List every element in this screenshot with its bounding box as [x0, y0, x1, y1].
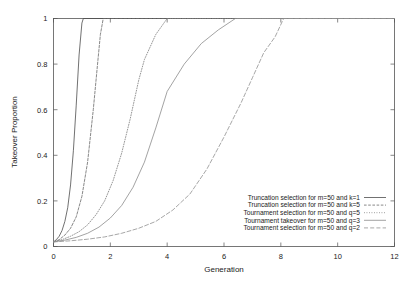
chart-figure: 024681012 00.20.40.60.81 Generation Take… — [0, 0, 411, 285]
x-tick-label: 0 — [51, 252, 55, 261]
x-tick-label: 6 — [222, 252, 226, 261]
x-tick-label: 10 — [333, 252, 341, 261]
y-tick-label: 1 — [43, 14, 47, 23]
takeover-proportion-line-chart: 024681012 00.20.40.60.81 Generation Take… — [0, 0, 411, 285]
y-tick-label: 0.8 — [37, 60, 47, 69]
x-tick-label: 2 — [108, 252, 112, 261]
x-tick-label: 12 — [390, 252, 398, 261]
legend-label-0: Truncation selection for m=50 and k=1 — [248, 194, 361, 201]
y-tick-label: 0.2 — [37, 197, 47, 206]
chart-background — [0, 0, 411, 285]
y-tick-label: 0 — [43, 242, 47, 251]
x-tick-label: 4 — [165, 252, 169, 261]
x-axis-title: Generation — [204, 265, 244, 274]
y-tick-label: 0.6 — [37, 106, 47, 115]
legend-label-4: Tournament selection for m=50 and q=2 — [243, 224, 360, 232]
x-tick-label: 8 — [279, 252, 283, 261]
y-axis-title: Takeover Proportion — [10, 96, 19, 168]
legend-label-1: Truncation selection for m=50 and k=5 — [248, 201, 361, 208]
y-tick-label: 0.4 — [37, 151, 47, 160]
